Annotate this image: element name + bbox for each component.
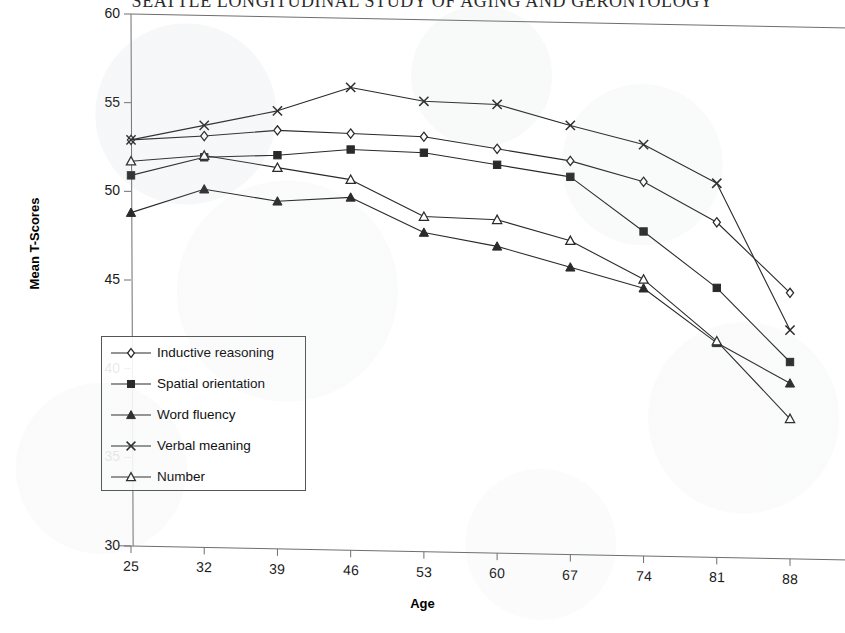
legend-item: Inductive reasoning <box>102 337 305 368</box>
x-tick-label: 46 <box>331 562 371 579</box>
legend-item: Verbal meaning <box>102 430 305 461</box>
y-tick-label: 45 <box>80 271 120 287</box>
y-tick-label: 50 <box>80 182 120 198</box>
legend-item-label: Verbal meaning <box>153 438 251 453</box>
legend-item: Word fluency <box>102 399 305 430</box>
y-tick-label: 60 <box>80 5 120 21</box>
legend-item: Spatial orientation <box>102 368 305 399</box>
filled-triangle-icon <box>109 408 153 422</box>
x-tick-label: 74 <box>623 568 663 585</box>
chart-title: SEATTLE LONGITUDINAL STUDY OF AGING AND … <box>0 0 845 12</box>
chart-plot-area <box>0 0 845 633</box>
x-axis-title: Age <box>0 596 845 611</box>
legend-item-label: Word fluency <box>153 407 236 422</box>
legend-item-label: Number <box>153 469 205 484</box>
x-tick-label: 81 <box>697 569 737 586</box>
x-tick-label: 60 <box>477 565 517 582</box>
filled-square-icon <box>109 377 153 391</box>
x-tick-label: 25 <box>111 558 151 575</box>
legend-item-label: Spatial orientation <box>153 376 265 391</box>
x-tick-label: 39 <box>257 560 297 577</box>
legend-item-label: Inductive reasoning <box>153 345 274 360</box>
legend-item: Number <box>102 461 305 492</box>
open-diamond-icon <box>109 346 153 360</box>
y-tick-label: 55 <box>80 94 120 110</box>
x-tick-label: 32 <box>184 559 224 576</box>
chart-legend: Inductive reasoningSpatial orientationWo… <box>101 336 306 491</box>
x-tick-label: 67 <box>550 566 590 583</box>
cross-x-icon <box>109 439 153 453</box>
y-axis-title: Mean T-Scores <box>27 184 42 304</box>
x-tick-label: 53 <box>404 563 444 580</box>
open-triangle-icon <box>109 470 153 484</box>
y-tick-label: 30 <box>80 537 120 553</box>
x-tick-label: 88 <box>770 570 810 587</box>
